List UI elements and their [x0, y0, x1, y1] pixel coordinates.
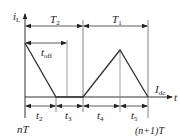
t3-label: t3 [65, 110, 72, 123]
T1-label: T1 [112, 14, 122, 27]
t5-label: t5 [131, 110, 138, 123]
waveform-svg [0, 0, 180, 140]
t4-label: t4 [97, 110, 104, 123]
start-time-label: nT [17, 124, 29, 135]
t2-label: t2 [36, 110, 43, 123]
waveform-diagram: iL T2 T1 toff Idc t t2 t3 t4 t5 nT (n+1)… [0, 0, 180, 140]
toff-label: toff [41, 47, 52, 60]
Idc-label: Idc [155, 84, 165, 97]
end-time-label: (n+1)T [135, 126, 164, 136]
t-axis-label: t [174, 92, 177, 103]
T2-label: T2 [50, 14, 60, 27]
y-axis-label: iL [13, 11, 20, 24]
